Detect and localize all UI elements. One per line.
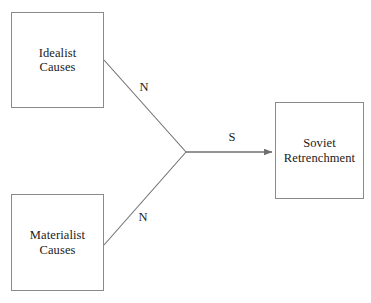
node-idealist-causes-line2: Causes [39, 60, 75, 75]
node-idealist-causes[interactable]: Idealist Causes [11, 12, 104, 108]
edge-label-materialist-n: N [135, 211, 151, 224]
edge-label-idealist-n: N [136, 81, 152, 94]
edge-label-junction-s: S [224, 131, 240, 144]
node-materialist-causes[interactable]: Materialist Causes [11, 194, 104, 291]
node-soviet-retrenchment-line2: Retrenchment [284, 151, 355, 166]
edge-idealist-to-junction [104, 60, 186, 152]
node-materialist-causes-line1: Materialist [30, 228, 85, 243]
node-soviet-retrenchment[interactable]: Soviet Retrenchment [275, 102, 364, 199]
diagram-canvas: Idealist Causes Materialist Causes Sovie… [0, 0, 371, 303]
node-idealist-causes-line1: Idealist [39, 46, 77, 61]
edge-materialist-to-junction [104, 152, 186, 245]
node-materialist-causes-line2: Causes [39, 243, 75, 258]
node-soviet-retrenchment-line1: Soviet [303, 136, 336, 151]
